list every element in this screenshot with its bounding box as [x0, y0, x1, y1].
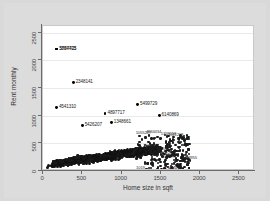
data-point: [159, 161, 161, 163]
data-point: [165, 140, 167, 142]
data-point: [59, 165, 62, 168]
chart-figure: 5897705378442323481414541310549972948977…: [0, 0, 270, 201]
data-point: [178, 150, 180, 152]
data-point: [175, 159, 177, 161]
data-point: [78, 163, 80, 165]
data-point: [138, 141, 140, 143]
data-point: [152, 165, 154, 167]
data-point: [179, 163, 181, 165]
outlier-point: [55, 106, 58, 109]
outlier-point: [72, 81, 75, 84]
x-tick-mark: [238, 171, 239, 174]
data-point: [66, 158, 68, 160]
data-point: [164, 163, 166, 165]
y-tick-label: 2500: [31, 32, 37, 62]
outlier-label: 4897717: [107, 110, 124, 115]
data-point: [77, 160, 79, 162]
outlier-point: [136, 103, 139, 106]
gridline: [43, 33, 253, 34]
y-tick-label: 500: [31, 142, 37, 172]
outlier-point: [55, 48, 58, 51]
y-tick-mark: [38, 142, 41, 143]
data-point: [90, 158, 92, 160]
data-point: [123, 151, 126, 154]
y-axis-line: [41, 24, 42, 171]
outlier-point: [104, 112, 107, 115]
data-point: [182, 149, 184, 151]
figure-background: 5897705378442323481414541310549972948977…: [4, 3, 266, 198]
data-point: [183, 166, 185, 168]
scatter-plot-panel: 5897705378442323481414541310549972948977…: [42, 25, 254, 170]
data-point: [157, 162, 159, 164]
data-point: [159, 137, 161, 139]
outlier-label: 3784423: [59, 46, 76, 51]
outlier-label: 4541310: [59, 104, 76, 109]
data-point: [108, 155, 110, 157]
data-point: [153, 137, 155, 139]
y-axis-title: Rent monthly: [10, 57, 17, 117]
x-axis-title: Home size in sqft: [42, 184, 254, 191]
data-point: [144, 161, 146, 163]
y-tick-mark: [38, 32, 41, 33]
data-point: [132, 152, 134, 154]
x-tick-mark: [160, 171, 161, 174]
y-tick-mark: [38, 115, 41, 116]
inner-point-label: 1055227: [136, 130, 151, 135]
data-point: [138, 135, 140, 137]
outlier-point: [81, 124, 84, 127]
data-point: [140, 157, 142, 159]
y-tick-mark: [38, 170, 41, 171]
data-point: [177, 137, 179, 139]
data-point: [144, 137, 146, 139]
x-tick-label: 2500: [223, 175, 253, 181]
data-point: [117, 158, 120, 161]
data-point: [82, 158, 84, 160]
inner-point-label: 4463955: [182, 155, 197, 160]
data-point: [117, 153, 119, 155]
outlier-point: [110, 121, 113, 124]
data-point: [174, 144, 176, 146]
data-point: [185, 151, 187, 153]
outlier-label: 2348141: [76, 79, 93, 84]
x-axis-line: [41, 170, 255, 171]
x-tick-label: 1000: [106, 175, 136, 181]
data-point: [157, 166, 159, 168]
y-tick-mark: [38, 87, 41, 88]
outlier-label: 6140869: [162, 112, 179, 117]
data-point: [188, 143, 190, 145]
x-tick-mark: [121, 171, 122, 174]
x-tick-mark: [199, 171, 200, 174]
data-point: [142, 153, 144, 155]
outlier-label: 1348661: [114, 119, 131, 124]
y-tick-label: 2000: [31, 59, 37, 89]
data-point: [96, 160, 99, 163]
y-tick-label: 0: [31, 170, 37, 200]
outlier-label: 5499729: [140, 101, 157, 106]
data-point: [70, 159, 72, 161]
gridline: [43, 88, 253, 89]
data-point: [141, 138, 143, 140]
data-point: [150, 167, 152, 169]
x-tick-mark: [81, 171, 82, 174]
y-tick-mark: [38, 59, 41, 60]
x-tick-label: 500: [66, 175, 96, 181]
data-point: [184, 144, 186, 146]
data-point: [145, 150, 147, 152]
outlier-point: [158, 114, 161, 117]
inner-point-label: 1192207: [159, 150, 174, 155]
y-tick-label: 1000: [31, 115, 37, 145]
data-point: [155, 151, 157, 153]
x-tick-label: 1500: [145, 175, 175, 181]
data-point: [171, 163, 173, 165]
data-point: [110, 159, 113, 162]
data-point: [177, 153, 179, 155]
data-point: [151, 158, 153, 160]
data-point: [68, 163, 70, 165]
y-tick-label: 1500: [31, 87, 37, 117]
gridline: [43, 60, 253, 61]
data-point: [159, 165, 161, 167]
data-point: [179, 160, 181, 162]
data-point: [156, 136, 158, 138]
x-tick-mark: [42, 171, 43, 174]
outlier-label: 5426207: [85, 122, 102, 127]
